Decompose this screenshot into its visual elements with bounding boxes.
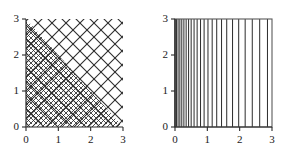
- left-x-tick-labels: 0 1 2 3: [23, 133, 126, 145]
- left-plot-panel: 0 1 2 3 0 1 2 3: [0, 0, 149, 156]
- right-y-tick-marks: [171, 19, 175, 127]
- right-axes-spines: [175, 19, 272, 127]
- left-ytick-3: 3: [14, 12, 20, 24]
- right-vertical-line-fill: [175, 19, 267, 127]
- left-xtick-2: 2: [88, 133, 94, 145]
- figure-container: 0 1 2 3 0 1 2 3: [0, 0, 297, 156]
- right-y-tick-labels: 0 1 2 3: [162, 12, 168, 132]
- right-ytick-1: 1: [162, 84, 168, 96]
- fine-hatch-down-diagonals: [0, 19, 149, 124]
- right-xtick-1: 1: [204, 133, 210, 145]
- right-xtick-0: 0: [172, 133, 178, 145]
- right-xtick-2: 2: [236, 133, 242, 145]
- right-ytick-3: 3: [162, 12, 168, 24]
- right-plot-frame: [175, 19, 272, 127]
- left-xtick-0: 0: [23, 133, 29, 145]
- right-ytick-2: 2: [162, 48, 168, 60]
- left-ytick-0: 0: [14, 120, 20, 132]
- left-xtick-1: 1: [56, 133, 62, 145]
- left-ytick-2: 2: [14, 48, 20, 60]
- left-xtick-3: 3: [120, 133, 126, 145]
- left-plot-svg: 0 1 2 3 0 1 2 3: [0, 0, 149, 156]
- left-y-tick-labels: 0 1 2 3: [14, 12, 20, 132]
- right-ytick-0: 0: [162, 120, 168, 132]
- left-ytick-1: 1: [14, 84, 20, 96]
- right-x-tick-labels: 0 1 2 3: [172, 133, 275, 145]
- right-plot-svg: 0 1 2 3 0 1 2 3: [149, 0, 298, 156]
- right-xtick-3: 3: [269, 133, 275, 145]
- right-plot-panel: 0 1 2 3 0 1 2 3: [149, 0, 298, 156]
